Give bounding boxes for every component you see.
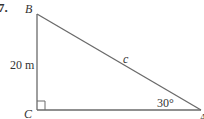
hypotenuse-label: c [123, 52, 129, 66]
problem-number: 7. [0, 0, 8, 15]
vertex-label-a: A [198, 111, 204, 119]
hypotenuse-c [37, 14, 201, 110]
right-triangle-diagram: 7. B C A 20 m c 30° [0, 0, 204, 119]
vertex-label-b: B [25, 2, 33, 16]
right-angle-marker [37, 101, 45, 110]
angle-a-label: 30° [157, 96, 174, 110]
side-length-bc: 20 m [10, 58, 35, 72]
vertex-label-c: C [24, 107, 33, 119]
